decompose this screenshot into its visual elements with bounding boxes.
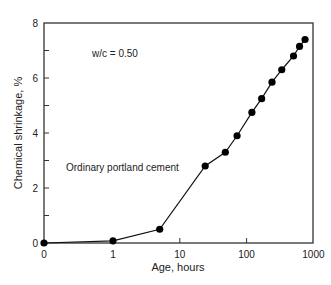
data-point-marker	[301, 36, 308, 43]
x-tick-label: 10	[174, 249, 186, 260]
x-axis-label: Age, hours	[151, 261, 205, 273]
x-tick-label: 1000	[302, 249, 325, 260]
y-axis-label: Chemical shrinkage, %	[12, 77, 24, 190]
data-point-marker	[222, 149, 229, 156]
plot-frame	[44, 23, 313, 243]
data-point-marker	[290, 52, 297, 59]
y-tick-label: 8	[32, 18, 38, 29]
data-point-marker	[278, 66, 285, 73]
chemical-shrinkage-chart: 02468 01101001000 Age, hours Chemical sh…	[0, 0, 331, 285]
y-tick-label: 6	[32, 73, 38, 84]
data-point-marker	[258, 95, 265, 102]
x-tick-label: 1	[110, 249, 116, 260]
annotation-cement-type: Ordinary portland cement	[66, 162, 179, 173]
y-tick-label: 0	[32, 238, 38, 249]
series-line	[44, 40, 305, 244]
y-axis-ticks: 02468	[32, 18, 49, 249]
y-tick-label: 2	[32, 183, 38, 194]
data-point-marker	[156, 226, 163, 233]
data-series	[40, 36, 308, 247]
data-point-marker	[296, 43, 303, 50]
x-tick-label: 0	[41, 249, 47, 260]
data-point-marker	[109, 237, 116, 244]
annotation-wc-ratio: w/c = 0.50	[91, 48, 138, 59]
data-point-marker	[248, 109, 255, 116]
data-point-marker	[233, 132, 240, 139]
data-point-marker	[202, 162, 209, 169]
y-tick-label: 4	[32, 128, 38, 139]
data-point-marker	[268, 79, 275, 86]
x-tick-label: 100	[238, 249, 255, 260]
data-point-marker	[40, 239, 47, 246]
